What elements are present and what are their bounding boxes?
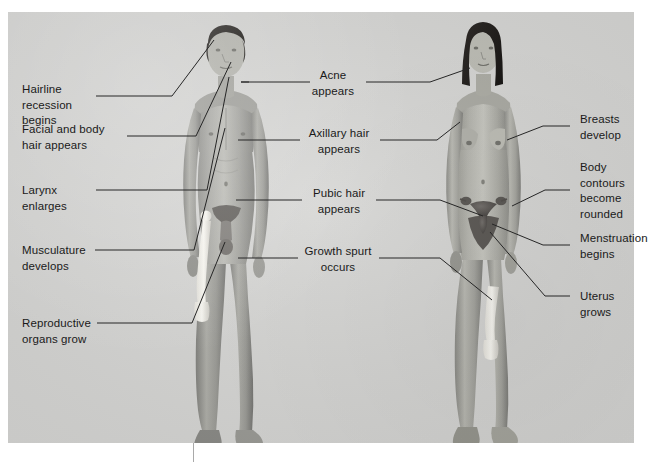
label-axillary-hair: Axillary hair appears (298, 126, 380, 157)
label-pubic-hair: Pubic hair appears (302, 186, 376, 217)
label-breasts-develop: Breasts develop (580, 112, 656, 143)
label-body-contours: Body contours become rounded (580, 160, 656, 222)
puberty-diagram: Hairline recession begins Facial and bod… (0, 0, 670, 462)
label-uterus-grows: Uterus grows (580, 289, 656, 320)
label-acne-appears: Acne appears (300, 68, 366, 99)
caption-stem-line (193, 443, 194, 462)
label-reproductive-organs: Reproductive organs grow (22, 316, 118, 347)
female-figure (446, 22, 521, 443)
female-tibia-highlight (483, 286, 499, 360)
male-figure (183, 25, 269, 443)
label-menstruation-begins: Menstruation begins (580, 231, 664, 262)
label-facial-body-hair: Facial and body hair appears (22, 122, 130, 153)
label-larynx-enlarges: Larynx enlarges (22, 183, 102, 214)
label-growth-spurt: Growth spurt occurs (296, 244, 380, 275)
female-uterus-highlight (460, 197, 507, 234)
label-musculature-develops: Musculature develops (22, 243, 112, 274)
male-femur-highlight (194, 211, 211, 323)
